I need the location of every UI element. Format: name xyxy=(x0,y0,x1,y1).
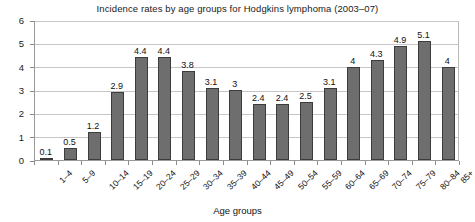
x-tick-label: 85+ xyxy=(458,168,475,185)
bar-value-label: 1.2 xyxy=(81,122,105,131)
bar xyxy=(276,104,289,160)
x-tick-mark xyxy=(294,161,295,165)
bar xyxy=(442,67,455,160)
gridline xyxy=(35,21,459,22)
y-tick-mark xyxy=(30,44,34,45)
bar xyxy=(64,148,77,160)
x-tick-mark xyxy=(435,161,436,165)
x-tick-mark xyxy=(199,161,200,165)
bar-value-label: 3.1 xyxy=(199,78,223,87)
x-tick-label: 10–14 xyxy=(107,168,131,192)
bar-value-label: 4.4 xyxy=(128,47,152,56)
x-tick-mark xyxy=(341,161,342,165)
y-tick-label: 5 xyxy=(0,39,24,49)
y-tick-mark xyxy=(30,91,34,92)
x-tick-label: 75–79 xyxy=(414,168,438,192)
y-tick-mark xyxy=(30,137,34,138)
x-tick-mark xyxy=(317,161,318,165)
x-tick-label: 1–4 xyxy=(57,168,74,185)
y-tick-label: 3 xyxy=(0,86,24,96)
x-tick-label: 40–44 xyxy=(249,168,273,192)
y-tick-mark xyxy=(30,21,34,22)
bar-chart: Incidence rates by age groups for Hodgki… xyxy=(0,0,475,222)
x-tick-mark xyxy=(34,161,35,165)
x-tick-label: 35–39 xyxy=(225,168,249,192)
x-tick-label: 5–9 xyxy=(81,168,98,185)
x-tick-mark xyxy=(58,161,59,165)
x-tick-label: 70–74 xyxy=(390,168,414,192)
y-tick-mark xyxy=(30,67,34,68)
chart-title: Incidence rates by age groups for Hodgki… xyxy=(0,3,475,14)
bar xyxy=(135,57,148,160)
x-tick-label: 60–64 xyxy=(343,168,367,192)
bar-value-label: 2.9 xyxy=(105,82,129,91)
bar-value-label: 2.5 xyxy=(294,92,318,101)
y-tick-label: 0 xyxy=(0,156,24,166)
x-tick-mark xyxy=(270,161,271,165)
x-tick-label: 30–34 xyxy=(201,168,225,192)
bar-value-label: 0.5 xyxy=(58,138,82,147)
y-tick-label: 2 xyxy=(0,109,24,119)
bar-value-label: 5.1 xyxy=(412,31,436,40)
x-tick-label: 45–49 xyxy=(272,168,296,192)
x-tick-mark xyxy=(128,161,129,165)
bar xyxy=(182,71,195,160)
x-tick-mark xyxy=(105,161,106,165)
bar xyxy=(418,41,431,160)
x-tick-mark xyxy=(459,161,460,165)
bar-value-label: 4 xyxy=(341,57,365,66)
bar-value-label: 3 xyxy=(223,80,247,89)
x-tick-label: 50–54 xyxy=(296,168,320,192)
bar xyxy=(300,102,313,160)
y-tick-label: 1 xyxy=(0,133,24,143)
y-tick-mark xyxy=(30,114,34,115)
x-tick-label: 25–29 xyxy=(178,168,202,192)
x-tick-label: 65–69 xyxy=(367,168,391,192)
bar xyxy=(324,88,337,160)
bar-value-label: 4.3 xyxy=(365,50,389,59)
x-tick-label: 15–19 xyxy=(131,168,155,192)
bar-value-label: 4.9 xyxy=(388,36,412,45)
x-tick-mark xyxy=(223,161,224,165)
bar xyxy=(394,46,407,160)
bar-value-label: 2.4 xyxy=(270,94,294,103)
x-tick-label: 55–59 xyxy=(319,168,343,192)
y-tick-label: 6 xyxy=(0,16,24,26)
bar-value-label: 3.1 xyxy=(317,78,341,87)
y-tick-label: 4 xyxy=(0,63,24,73)
x-tick-mark xyxy=(247,161,248,165)
x-axis-title: Age groups xyxy=(0,205,475,216)
bar xyxy=(158,57,171,160)
bar-value-label: 2.4 xyxy=(247,94,271,103)
bar xyxy=(206,88,219,160)
x-tick-mark xyxy=(81,161,82,165)
x-tick-mark xyxy=(152,161,153,165)
bar xyxy=(253,104,266,160)
x-tick-label: 20–24 xyxy=(154,168,178,192)
bar xyxy=(40,158,53,160)
bar xyxy=(347,67,360,160)
x-tick-mark xyxy=(388,161,389,165)
bar xyxy=(229,90,242,160)
bar xyxy=(88,132,101,160)
x-tick-mark xyxy=(365,161,366,165)
x-tick-mark xyxy=(412,161,413,165)
x-tick-mark xyxy=(176,161,177,165)
bar-value-label: 4.4 xyxy=(152,47,176,56)
bar-value-label: 0.1 xyxy=(34,148,58,157)
bar xyxy=(371,60,384,160)
bar xyxy=(111,92,124,160)
x-tick-label: 80–84 xyxy=(438,168,462,192)
bar-value-label: 4 xyxy=(435,57,459,66)
bar-value-label: 3.8 xyxy=(176,61,200,70)
